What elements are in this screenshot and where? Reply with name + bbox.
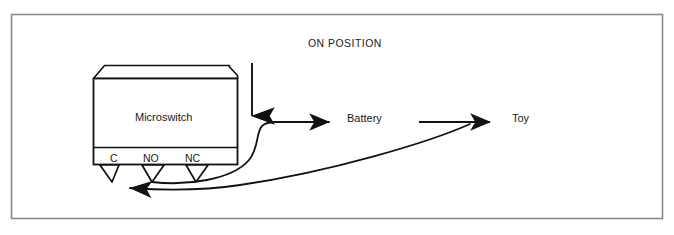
toy-label: Toy [512,112,529,124]
battery-label: Battery [347,112,382,124]
circuit-diagram [0,0,674,235]
terminal-lug-c [100,165,119,182]
terminal-label-nc: NC [185,152,200,164]
microswitch-on-position-figure: ON POSITION Microswitch C NO NC Battery … [0,0,674,235]
microswitch-label: Microswitch [135,111,192,123]
terminal-lugs [100,165,208,182]
terminal-label-c: C [110,152,118,164]
terminal-lug-no [142,165,164,182]
terminal-lug-nc [186,165,208,182]
switch-top-face [94,66,238,79]
figure-title: ON POSITION [308,37,382,49]
terminal-label-no: NO [143,152,159,164]
